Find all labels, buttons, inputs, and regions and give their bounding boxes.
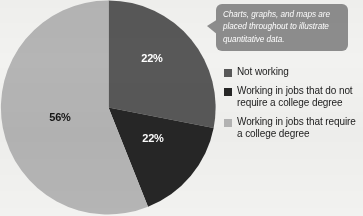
pie-chart-svg: 22% 22% 56% (0, 0, 217, 216)
legend-item-not-working[interactable]: Not working (224, 66, 363, 79)
chart-legend: Not working Working in jobs that do not … (224, 66, 363, 147)
pie-slice-label-jobs-requiring-degree: 56% (49, 111, 71, 123)
legend-item-jobs-requiring-degree[interactable]: Working in jobs that require a college d… (224, 116, 363, 141)
legend-label-jobs-requiring-degree: Working in jobs that require a college d… (237, 116, 363, 141)
legend-item-jobs-not-requiring-degree[interactable]: Working in jobs that do not require a co… (224, 85, 363, 110)
pie-slice-not-working (109, 0, 216, 127)
callout-tail (207, 19, 218, 35)
pie-chart-figure: 22% 22% 56% Charts, graphs, and maps are… (0, 0, 363, 216)
pie-chart: 22% 22% 56% (0, 0, 217, 216)
callout-text: Charts, graphs, and maps are placed thro… (223, 9, 345, 46)
legend-label-jobs-not-requiring-degree: Working in jobs that do not require a co… (237, 85, 363, 110)
legend-label-not-working: Not working (237, 66, 289, 79)
legend-swatch-icon-jobs-requiring-degree (224, 119, 232, 127)
legend-swatch-icon-not-working (224, 69, 232, 77)
pie-slice-label-not-working: 22% (141, 52, 163, 64)
pie-slice-label-jobs-not-requiring-degree: 22% (142, 132, 164, 144)
legend-swatch-icon-jobs-not-requiring-degree (224, 88, 232, 96)
callout-bubble: Charts, graphs, and maps are placed thro… (207, 4, 348, 51)
